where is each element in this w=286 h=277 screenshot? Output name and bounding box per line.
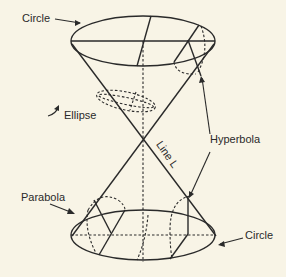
label-hyperbola: Hyperbola — [210, 134, 260, 145]
label-parabola: Parabola — [21, 192, 65, 203]
label-circle-top: Circle — [22, 13, 50, 24]
label-ellipse: Ellipse — [64, 110, 96, 121]
ellipse-section — [95, 86, 157, 116]
label-circle-bottom: Circle — [245, 230, 273, 241]
